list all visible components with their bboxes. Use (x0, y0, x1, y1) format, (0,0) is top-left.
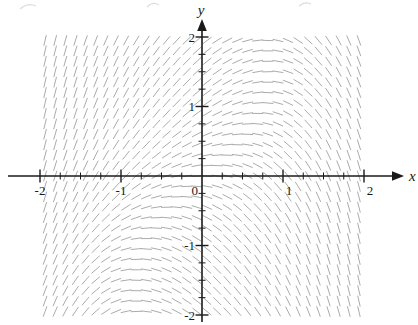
slope-mark (305, 151, 311, 160)
slope-mark (83, 150, 88, 160)
slope-mark (233, 184, 243, 189)
slope-mark (263, 142, 273, 147)
slope-mark (255, 245, 261, 254)
slope-mark (153, 130, 161, 138)
slope-mark (151, 300, 162, 303)
slope-mark (44, 66, 47, 77)
slope-mark (283, 80, 293, 84)
scan-artifact (299, 3, 311, 6)
slope-mark (133, 46, 139, 55)
slope-mark (54, 98, 57, 109)
slope-mark (252, 40, 263, 41)
slope-mark (101, 246, 110, 252)
slope-mark (111, 247, 121, 252)
slope-mark (54, 150, 57, 161)
slope-mark (242, 91, 253, 94)
slope-mark (53, 307, 57, 317)
slope-mark (316, 202, 320, 212)
slope-mark (202, 185, 213, 187)
slope-mark (223, 194, 233, 199)
slope-mark (53, 192, 57, 202)
slope-mark (143, 109, 150, 118)
slope-mark (161, 237, 172, 240)
slope-mark (347, 150, 351, 160)
slope-mark (133, 67, 139, 77)
slope-mark (54, 108, 57, 119)
slope-mark (327, 223, 331, 233)
slope-mark (103, 140, 108, 150)
slope-mark (348, 296, 351, 307)
slope-mark (151, 195, 162, 198)
slope-mark (234, 266, 241, 275)
slope-mark (244, 214, 252, 222)
slope-mark (153, 47, 160, 56)
slope-mark (92, 256, 100, 263)
slope-mark (294, 69, 303, 75)
slope-mark (104, 88, 108, 98)
slope-mark (182, 164, 193, 167)
slope-mark (284, 151, 292, 159)
slope-mark (243, 183, 252, 189)
slope-mark (275, 234, 281, 244)
slope-mark (358, 285, 361, 296)
slope-mark (84, 46, 88, 56)
slope-mark (163, 99, 170, 107)
slope-mark (173, 68, 180, 76)
slope-mark (131, 205, 141, 210)
slope-mark (306, 192, 311, 202)
slope-mark (162, 163, 172, 168)
slope-mark (337, 223, 340, 234)
slope-mark (304, 47, 312, 54)
slope-mark (242, 154, 253, 157)
slope-mark (53, 296, 57, 306)
slope-mark (357, 35, 361, 45)
slope-mark (306, 213, 311, 223)
slope-mark (44, 139, 47, 150)
slope-mark (103, 161, 109, 170)
slope-mark (131, 216, 141, 220)
slope-mark (244, 265, 251, 274)
slope-mark (337, 192, 341, 203)
slope-mark (265, 296, 271, 305)
slope-mark (254, 193, 262, 201)
slope-mark (234, 276, 241, 285)
slope-mark (232, 123, 243, 125)
slope-mark (357, 67, 361, 77)
slope-mark (173, 110, 181, 118)
slope-mark (102, 203, 110, 211)
slope-mark (153, 109, 160, 118)
slope-mark (296, 223, 301, 233)
slope-mark (121, 237, 131, 241)
slope-mark (172, 298, 182, 303)
slope-mark (223, 225, 231, 232)
slope-mark (213, 215, 222, 221)
slope-mark (84, 35, 88, 45)
slope-mark (336, 129, 341, 139)
slope-mark (193, 79, 201, 86)
slope-mark (315, 78, 322, 86)
slope-mark (255, 265, 261, 274)
slope-mark (336, 36, 341, 46)
slope-mark (161, 196, 172, 198)
slope-mark (163, 78, 170, 87)
slope-mark (347, 181, 350, 192)
slope-mark (133, 78, 139, 87)
slope-mark (315, 68, 322, 76)
slope-mark (143, 99, 149, 108)
slope-mark (121, 290, 132, 292)
slope-mark (73, 223, 79, 233)
y-tick-label: 2 (189, 30, 196, 45)
slope-mark (212, 205, 222, 210)
slope-mark (162, 310, 172, 314)
slope-mark (54, 139, 57, 150)
slope-mark (265, 255, 271, 264)
slope-mark (358, 244, 361, 255)
slope-mark (264, 183, 272, 191)
slope-mark (273, 102, 284, 105)
slope-mark (153, 120, 160, 128)
slope-mark (317, 233, 321, 243)
slope-mark (316, 140, 322, 149)
slope-mark (316, 150, 322, 160)
slope-mark (94, 88, 98, 98)
slope-mark (336, 77, 341, 87)
